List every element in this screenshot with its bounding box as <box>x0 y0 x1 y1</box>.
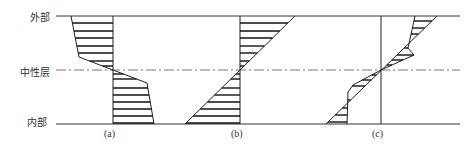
stress-diagram <box>0 0 470 148</box>
